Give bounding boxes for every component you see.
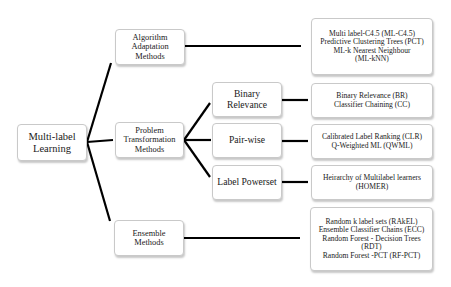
leaf-label-powerset-methods: Heirarchy of Multilabel learners (HOMER): [311, 165, 433, 200]
node-multi-label-learning: Multi-label Learning: [17, 124, 87, 161]
node-label: Binary Relevance: [227, 89, 267, 110]
edge-pt-label-powerset: [184, 140, 210, 177]
methods-list: Calibrated Label Ranking (CLR) Q-Weighte…: [322, 133, 422, 150]
leaf-ensemble-methods: Random k label sets (RAkEL) Ensemble Cla…: [310, 207, 433, 271]
edge-root-problem-transformation: [87, 140, 113, 142]
node-binary-relevance: Binary Relevance: [212, 82, 282, 117]
methods-list: Multi label-C4.5 (ML-C4.5) Predictive Cl…: [320, 30, 424, 64]
methods-list: Binary Relevance (BR) Classifier Chainin…: [334, 92, 410, 109]
methods-list: Random k label sets (RAkEL) Ensemble Cla…: [319, 218, 425, 261]
node-label: Ensemble Methods: [118, 229, 180, 248]
node-label-powerset: Label Powerset: [212, 165, 282, 200]
node-label: Pair-wise: [229, 135, 265, 146]
node-label: Multi-label Learning: [28, 131, 75, 155]
leaf-algorithm-adaptation-methods: Multi label-C4.5 (ML-C4.5) Predictive Cl…: [311, 18, 433, 75]
leaf-binary-relevance-methods: Binary Relevance (BR) Classifier Chainin…: [311, 83, 433, 118]
node-problem-transformation-methods: Problem Transformation Methods: [115, 122, 184, 158]
node-label: Problem Transformation Methods: [124, 126, 176, 154]
node-label: Algorithm Adaptation Methods: [131, 33, 168, 61]
taxonomy-diagram: Multi-label Learning Algorithm Adaptatio…: [0, 0, 451, 287]
node-label: Label Powerset: [217, 177, 276, 188]
leaf-pair-wise-methods: Calibrated Label Ranking (CLR) Q-Weighte…: [311, 124, 433, 159]
node-algorithm-adaptation-methods: Algorithm Adaptation Methods: [115, 29, 185, 65]
methods-list: Heirarchy of Multilabel learners (HOMER): [323, 174, 421, 191]
node-pair-wise: Pair-wise: [212, 123, 282, 158]
edge-pt-binary-relevance: [184, 103, 210, 140]
node-ensemble-methods: Ensemble Methods: [114, 220, 184, 256]
edge-root-ensemble: [87, 142, 110, 221]
edge-root-algorithm-adaptation: [87, 63, 111, 142]
